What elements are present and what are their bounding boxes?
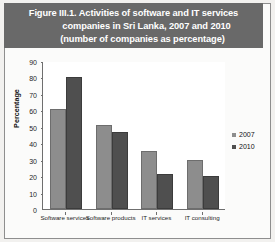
figure-title-line-1: Figure III.1. Activities of software and… [10,7,257,20]
bar-2007-software-products [96,125,112,209]
x-axis-tick-label: Software services [40,214,89,221]
bars-container [43,62,225,209]
y-axis-tick-label: 50 [29,124,37,131]
y-axis-tick-label: 60 [29,108,37,115]
chart-legend: 20072010 [232,130,266,154]
x-axis-tick-mark [65,212,66,215]
legend-swatch-icon [232,133,236,137]
figure-title-line-2: companies in Sri Lanka, 2007 and 2010 [10,20,257,33]
y-axis-tick-label: 70 [29,91,37,98]
legend-label: 2010 [239,143,255,151]
bar-group [141,62,173,209]
bar-chart: Percentage 0102030405060708090 Software … [4,52,263,237]
x-axis-tick-mark [156,212,157,215]
legend-swatch-icon [232,145,236,149]
plot-area [42,62,225,210]
legend-label: 2007 [239,131,255,139]
y-axis-tick-label: 40 [29,141,37,148]
bar-2007-software-services [50,109,66,209]
figure-title-banner: Figure III.1. Activities of software and… [4,3,263,48]
x-axis-tick-label: IT services [141,214,171,221]
x-axis-tick-labels: Software servicesSoftware productsIT ser… [42,212,225,228]
y-axis-tick-label: 30 [29,157,37,164]
y-axis-tick-label: 10 [29,190,37,197]
bar-2010-it-services [157,174,173,209]
bar-group [187,62,219,209]
y-axis-tick-label: 20 [29,174,37,181]
bar-2010-software-services [66,77,82,209]
x-axis-tick-label: IT consulting [185,214,220,221]
bar-2010-it-consulting [203,176,219,209]
y-axis-tick-label: 0 [33,207,37,214]
bar-2007-it-services [141,151,157,209]
y-axis-tick-label: 90 [29,59,37,66]
legend-item-2007[interactable]: 2007 [232,130,266,140]
bar-group [50,62,82,209]
bar-2007-it-consulting [187,160,203,209]
y-axis-tick-label: 80 [29,75,37,82]
bar-2010-software-products [112,132,128,209]
y-axis-tick-labels: 0102030405060708090 [16,62,40,210]
bar-group [96,62,128,209]
legend-item-2010[interactable]: 2010 [232,142,266,152]
x-axis-tick-mark [111,212,112,215]
figure-root: Figure III.1. Activities of software and… [0,0,275,242]
figure-title-line-3: (number of companies as percentage) [10,33,257,46]
x-axis-tick-label: Software products [86,214,136,221]
x-axis-tick-mark [202,212,203,215]
